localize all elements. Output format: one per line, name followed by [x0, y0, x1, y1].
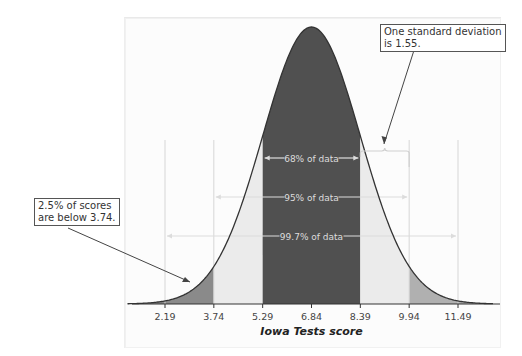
region-4 [409, 267, 493, 304]
x-tick-label: 5.29 [252, 311, 273, 322]
x-tick-label: 3.74 [203, 311, 224, 322]
region-2 [263, 27, 361, 304]
range-label-range_95: 95% of data [284, 193, 339, 203]
tail-callout-line2: are below 3.74. [38, 212, 116, 224]
region-0 [128, 267, 214, 304]
normal-distribution-chart: 68% of data95% of data99.7% of data 2.19… [0, 0, 522, 356]
sd-callout-line1: One standard deviation [384, 26, 502, 38]
sd-callout: One standard deviation is 1.55. [380, 24, 506, 52]
x-tick-label: 6.84 [301, 311, 322, 322]
tail-callout: 2.5% of scores are below 3.74. [34, 198, 120, 226]
x-axis-title: Iowa Tests score [260, 325, 363, 338]
x-tick-label: 8.39 [350, 311, 371, 322]
range-label-range_997: 99.7% of data [280, 232, 343, 242]
x-tick-label: 11.49 [444, 311, 471, 322]
x-tick-label: 9.94 [399, 311, 420, 322]
tail-callout-line1: 2.5% of scores [38, 200, 116, 212]
shaded-regions [128, 27, 493, 304]
x-axis-ticks: 2.193.745.296.848.399.9411.49 [154, 304, 471, 322]
x-tick-label: 2.19 [154, 311, 175, 322]
range-label-range_68: 68% of data [284, 154, 339, 164]
sd-callout-line2: is 1.55. [384, 38, 502, 50]
